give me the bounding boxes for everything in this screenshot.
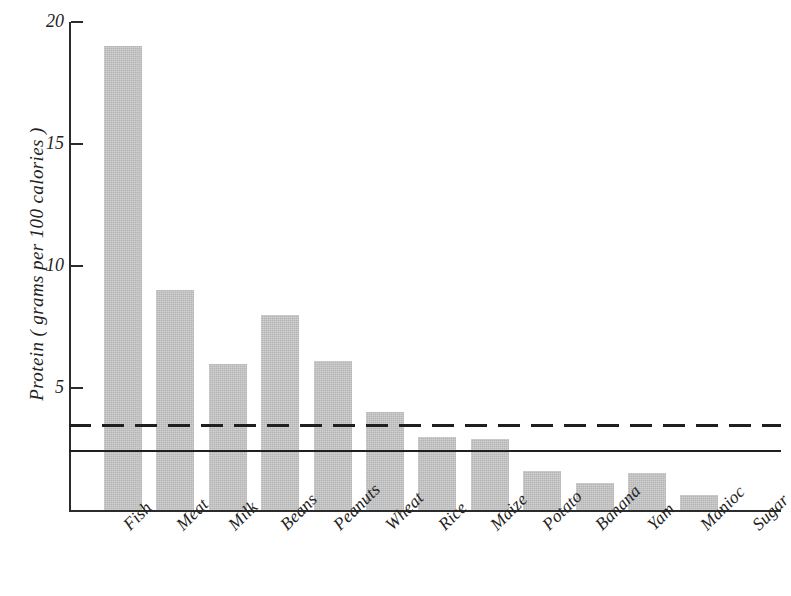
y-axis-tick-label: 20 <box>28 11 64 32</box>
bar <box>209 364 247 510</box>
bar <box>156 290 194 510</box>
upper-requirement-line <box>69 424 781 427</box>
bar <box>261 315 299 510</box>
protein-per-100-calories-bar-chart: Protein ( grams per 100 calories ) 51015… <box>0 0 791 596</box>
y-axis-tick-mark <box>71 265 83 267</box>
y-axis-line <box>69 22 71 512</box>
plot-area: 5101520 FishMeatMilkBeansPeanutsWheatRic… <box>0 0 791 596</box>
x-axis-tick-label: Sugar <box>748 490 791 535</box>
y-axis-tick-mark <box>71 387 83 389</box>
y-axis-tick-label: 15 <box>28 133 64 154</box>
bar <box>104 46 142 510</box>
y-axis-tick-label: 10 <box>28 255 64 276</box>
y-axis-tick-label: 5 <box>28 377 64 398</box>
bar <box>314 361 352 510</box>
lower-requirement-line <box>69 450 781 452</box>
y-axis-tick-mark <box>71 143 83 145</box>
y-axis-tick-mark <box>71 21 83 23</box>
